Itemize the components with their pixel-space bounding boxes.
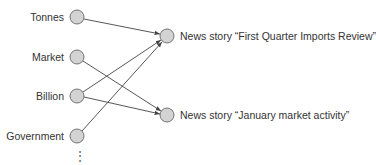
edges [82, 19, 162, 131]
word-label-billion: Billion [0, 90, 64, 102]
edge-tonnes-story1 [84, 19, 160, 34]
word-label-market: Market [0, 51, 64, 63]
story-label-1: News story “First Quarter Imports Review… [180, 30, 376, 42]
ellipsis-more-words: ⋮ [74, 150, 86, 162]
word-node-government [70, 129, 84, 143]
word-label-tonnes: Tonnes [0, 11, 64, 23]
edge-government-story1 [82, 42, 162, 131]
edge-billion-story2 [84, 97, 160, 114]
edge-billion-story1 [83, 40, 161, 92]
story-node-1 [160, 29, 174, 43]
story-label-2: News story “January market activity” [180, 109, 349, 121]
word-node-tonnes [70, 10, 84, 24]
story-node-2 [160, 108, 174, 122]
word-label-government: Government [0, 130, 64, 142]
word-node-market [70, 50, 84, 64]
word-node-billion [70, 89, 84, 103]
